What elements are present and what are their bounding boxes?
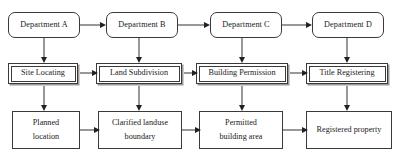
node-registered-property[interactable]: Registered property xyxy=(306,111,392,149)
node-site-locating[interactable]: Site Locating xyxy=(8,63,78,84)
node-label: Department B xyxy=(118,20,165,30)
node-label: Department A xyxy=(20,20,67,30)
node-label-line1: Permitted xyxy=(225,118,257,128)
node-label: Building Permission xyxy=(208,68,275,78)
arrow-site-locating-down-to-planned-location xyxy=(38,86,50,111)
arrow-department-d-down-to-title-registering xyxy=(341,38,353,63)
node-building-permission[interactable]: Building Permission xyxy=(196,63,288,84)
node-label-line1: Planned xyxy=(33,118,59,128)
arrow-title-registering-down-to-registered-property xyxy=(341,86,353,111)
node-permitted-building-area[interactable]: Permitted building area xyxy=(199,111,283,149)
flowchart-canvas: Department A Department B Department C D… xyxy=(0,0,404,156)
arrow-building-permission-to-title-registering xyxy=(290,67,308,79)
node-planned-location[interactable]: Planned location xyxy=(12,111,80,149)
node-label: Title Registering xyxy=(320,68,375,78)
node-department-a[interactable]: Department A xyxy=(8,12,80,38)
node-label: Department C xyxy=(222,20,269,30)
arrow-department-b-down-to-land-subdivision xyxy=(133,38,145,63)
node-label-line2: location xyxy=(33,132,59,142)
node-label-line2: building area xyxy=(220,132,263,142)
arrow-department-b-to-department-c xyxy=(178,19,210,31)
node-department-b[interactable]: Department B xyxy=(106,12,178,38)
node-label-line1: Clarified landuse xyxy=(112,118,168,128)
arrow-department-c-to-department-d xyxy=(282,19,312,31)
node-label-line1: Registered property xyxy=(317,125,382,135)
arrow-building-permission-down-to-permitted-building-area xyxy=(236,86,248,111)
node-department-d[interactable]: Department D xyxy=(312,12,384,38)
arrow-clarified-landuse-boundary-to-permitted-building-area xyxy=(182,124,201,136)
arrow-site-locating-to-land-subdivision xyxy=(80,67,98,79)
node-land-subdivision[interactable]: Land Subdivision xyxy=(96,63,182,84)
arrow-planned-location-to-clarified-landuse-boundary xyxy=(80,124,100,136)
node-department-c[interactable]: Department C xyxy=(210,12,282,38)
node-label: Land Subdivision xyxy=(110,68,168,78)
arrow-department-a-down-to-site-locating xyxy=(38,38,50,63)
arrow-land-subdivision-to-building-permission xyxy=(184,67,198,79)
node-title-registering[interactable]: Title Registering xyxy=(306,63,388,84)
arrow-permitted-building-area-to-registered-property xyxy=(283,124,308,136)
node-label: Department D xyxy=(324,20,372,30)
arrow-department-c-down-to-building-permission xyxy=(236,38,248,63)
arrow-department-a-to-department-b xyxy=(80,19,106,31)
arrow-land-subdivision-down-to-clarified-landuse-boundary xyxy=(133,86,145,111)
node-label: Site Locating xyxy=(21,68,65,78)
node-label-line2: boundary xyxy=(125,132,156,142)
node-clarified-landuse-boundary[interactable]: Clarified landuse boundary xyxy=(98,111,182,149)
